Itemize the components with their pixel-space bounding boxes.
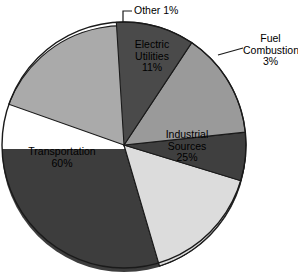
pie-chart: Other 1% Electric Utilities 11% Fuel Com… (0, 0, 298, 273)
slice-label-industrial-sources-name-line2: Sources (168, 140, 207, 152)
slice-label-industrial-sources-name-line1: Industrial (166, 128, 209, 140)
slice-label-fuel-combustion-name-line2: Combustion (243, 44, 298, 56)
slice-label-transportation-name: Transportation (28, 145, 95, 157)
slice-label-fuel-combustion-value: 3% (263, 55, 278, 67)
slice-label-electric-utilities-value: 11% (142, 61, 162, 73)
slice-label-other-text: Other 1% (134, 4, 178, 16)
slice-label-electric-utilities: Electric Utilities 11% (123, 39, 181, 74)
leader-line-fuel-combustion (218, 48, 243, 55)
leader-line-other (123, 11, 132, 22)
slice-label-other: Other 1% (134, 5, 178, 17)
slice-label-industrial-sources: Industrial Sources 25% (152, 129, 222, 164)
slice-label-industrial-sources-value: 25% (176, 151, 197, 163)
slice-label-fuel-combustion: Fuel Combustion 3% (243, 33, 298, 68)
slice-label-electric-utilities-name-line2: Utilities (135, 50, 169, 62)
slice-label-transportation-value: 60% (51, 157, 72, 169)
slice-label-fuel-combustion-name-line1: Fuel (260, 32, 280, 44)
slice-label-transportation: Transportation 60% (12, 146, 112, 169)
slice-label-electric-utilities-name-line1: Electric (135, 38, 169, 50)
